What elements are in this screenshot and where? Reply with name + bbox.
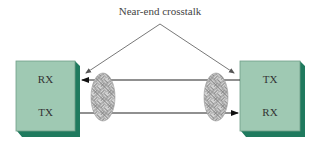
- crosstalk-pointer-arrows: [86, 24, 234, 73]
- cable-bundle-right-icon: [204, 73, 228, 121]
- left-device-top-label: RX: [16, 73, 75, 85]
- right-device-bottom-label: RX: [240, 106, 300, 118]
- left-device-bottom-label: TX: [16, 106, 75, 118]
- right-device-top-label: TX: [240, 73, 300, 85]
- diagram-title: Near-end crosstalk: [110, 5, 210, 17]
- cable-bundle-left-icon: [91, 73, 115, 121]
